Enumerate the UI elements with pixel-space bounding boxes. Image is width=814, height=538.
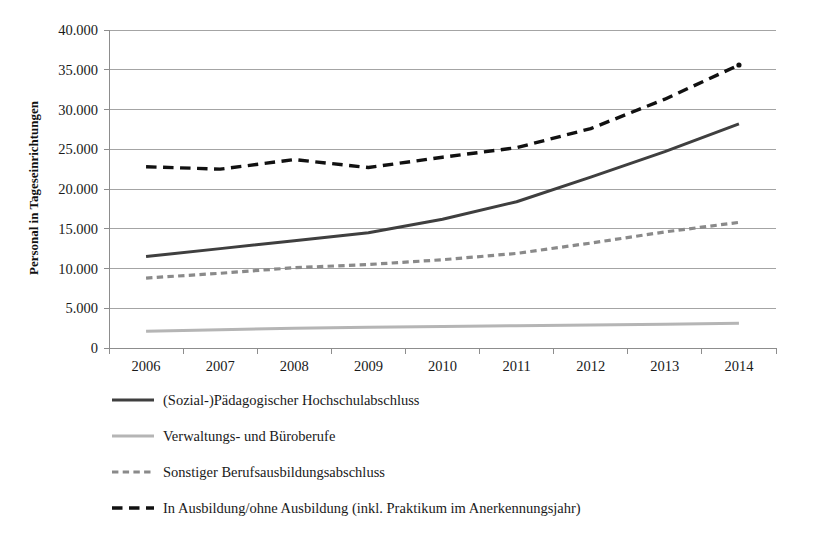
line-chart-figure: Personal in Tageseinrichtungen 05.00010.… bbox=[0, 0, 814, 538]
y-tick-label: 5.000 bbox=[65, 300, 98, 316]
y-tick-label: 30.000 bbox=[58, 102, 98, 118]
x-tick-label: 2006 bbox=[132, 358, 161, 374]
x-tick-label: 2008 bbox=[280, 358, 309, 374]
y-tick-label: 15.000 bbox=[58, 221, 98, 237]
y-tick-label: 0 bbox=[91, 340, 98, 356]
y-tick-label: 25.000 bbox=[58, 141, 98, 157]
legend-item[interactable]: In Ausbildung/ohne Ausbildung (inkl. Pra… bbox=[112, 500, 581, 517]
x-tick-label: 2010 bbox=[428, 358, 457, 374]
x-tick-label: 2007 bbox=[206, 358, 235, 374]
legend-label: Verwaltungs- und Büroberufe bbox=[163, 428, 335, 444]
y-tick-label: 35.000 bbox=[58, 62, 98, 78]
legend-label: (Sozial-)Pädagogischer Hochschulabschlus… bbox=[163, 392, 420, 409]
x-tick-label: 2014 bbox=[724, 358, 754, 374]
legend-label: In Ausbildung/ohne Ausbildung (inkl. Pra… bbox=[163, 500, 581, 517]
legend-label: Sonstiger Berufsausbildungsabschluss bbox=[163, 464, 385, 480]
y-axis-title: Personal in Tageseinrichtungen bbox=[26, 100, 41, 275]
x-tick-label: 2011 bbox=[502, 358, 530, 374]
figure-background bbox=[0, 0, 814, 538]
x-tick-label: 2012 bbox=[576, 358, 605, 374]
x-tick-labels: 200620072008200920102011201220132014 bbox=[132, 358, 755, 374]
series-end-marker bbox=[736, 62, 741, 67]
y-tick-label: 20.000 bbox=[58, 181, 98, 197]
x-tick-label: 2009 bbox=[354, 358, 383, 374]
y-tick-label: 10.000 bbox=[58, 261, 98, 277]
y-tick-label: 40.000 bbox=[58, 22, 98, 38]
y-axis-title-label: Personal in Tageseinrichtungen bbox=[26, 100, 41, 275]
x-tick-label: 2013 bbox=[650, 358, 679, 374]
